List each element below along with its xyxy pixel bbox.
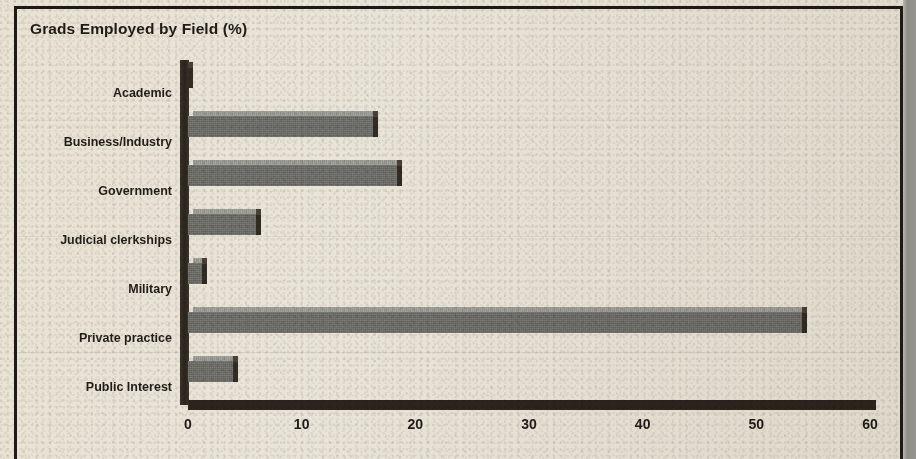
x-tick-0: 0: [184, 416, 192, 432]
x-tick-40: 40: [635, 416, 651, 432]
scanned-page: Grads Employed by Field (%) Academic Bus…: [0, 0, 916, 459]
scan-gutter: [903, 0, 916, 459]
bar-business-industry: [188, 111, 373, 137]
x-axis-baseline: [188, 400, 876, 410]
x-tick-50: 50: [749, 416, 765, 432]
x-tick-10: 10: [294, 416, 310, 432]
cat-label-judicial-clerkships: Judicial clerkships: [12, 233, 172, 247]
category-axis-labels: Academic Business/Industry Government Ju…: [10, 0, 172, 459]
x-tick-30: 30: [521, 416, 537, 432]
bar-judicial-clerkships: [188, 209, 256, 235]
frame-rule-top: [14, 6, 903, 9]
bar-military: [188, 258, 202, 284]
x-tick-60: 60: [862, 416, 878, 432]
cat-label-business-industry: Business/Industry: [12, 135, 172, 149]
bar-private-practice: [188, 307, 802, 333]
bar-public-interest: [188, 356, 233, 382]
bar-chart: Grads Employed by Field (%) Academic Bus…: [0, 0, 916, 459]
x-axis-end-bevel: [866, 400, 876, 410]
frame-rule-left: [14, 6, 17, 459]
cat-label-academic: Academic: [12, 86, 172, 100]
cat-label-government: Government: [12, 184, 172, 198]
cat-label-military: Military: [12, 282, 172, 296]
x-tick-20: 20: [408, 416, 424, 432]
bar-government: [188, 160, 397, 186]
cat-label-public-interest: Public Interest: [12, 380, 172, 394]
cat-label-private-practice: Private practice: [12, 331, 172, 345]
